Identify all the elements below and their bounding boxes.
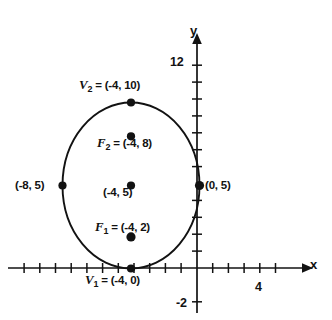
label-f1-coords: = (-4, 2) bbox=[108, 221, 150, 233]
label-center: (-4, 5) bbox=[103, 187, 132, 199]
label-left-covertex: (-8, 5) bbox=[15, 180, 44, 192]
y-tick-label-12: 12 bbox=[170, 56, 184, 69]
point-v1 bbox=[127, 264, 135, 272]
y-axis-label: y bbox=[190, 24, 197, 37]
x-axis-label: x bbox=[310, 258, 317, 271]
label-v2-coords: = (-4, 10) bbox=[92, 79, 140, 91]
coordinate-plane-svg bbox=[0, 0, 332, 320]
label-v1-coords: = (-4, 0) bbox=[98, 274, 140, 286]
label-right-covertex: (0, 5) bbox=[205, 180, 231, 192]
x-tick-label-4: 4 bbox=[255, 281, 262, 294]
point-left-covertex bbox=[58, 181, 66, 189]
label-focus-f1: F1 = (-4, 2) bbox=[95, 221, 150, 235]
label-vertex-v2: V2 = (-4, 10) bbox=[79, 79, 140, 93]
label-focus-f2: F2 = (-4, 8) bbox=[97, 137, 152, 151]
point-right-covertex bbox=[195, 181, 204, 190]
label-vertex-v1: V1 = (-4, 0) bbox=[85, 274, 140, 288]
label-f2-coords: = (-4, 8) bbox=[110, 137, 152, 149]
point-v2 bbox=[127, 98, 135, 106]
y-tick-label-neg2: -2 bbox=[176, 297, 187, 310]
